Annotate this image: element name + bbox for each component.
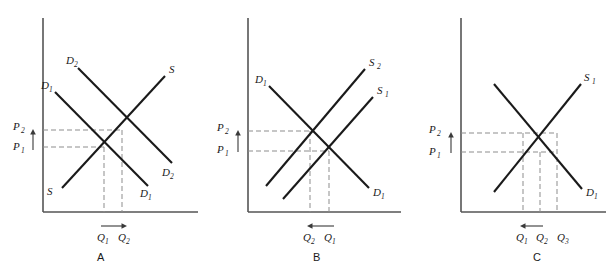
price-change-arrow-up-icon [30,129,36,150]
quantity-label-q1: Q 1 [97,231,109,246]
price-label-p2-sub: 2 [225,127,229,136]
curve-label-d1-end: D 1 [139,187,152,202]
panel-a: D 2 D 1 S D 2 D 1 S [0,0,203,269]
quantity-label-q1-sub: 1 [105,237,109,246]
curve-label-d1-end-sub: 1 [381,192,385,201]
curve-label-d2-top: D 2 [65,54,78,69]
quantity-label-q1-letter: Q [516,231,524,243]
curve-label-d1-top-letter: D [40,79,49,91]
price-label-p2-letter: P [12,120,20,132]
quantity-label-q2-letter: Q [118,231,126,243]
quantity-label-q3-sub: 3 [564,237,569,246]
price-label-p2-letter: P [216,121,224,133]
curve-label-s1: S 1 [584,71,596,86]
price-label-p2: P 2 [428,123,441,138]
curve-label-s1-sub: 1 [385,90,389,99]
curve-label-d1-top: D 1 [254,73,267,88]
curve-label-s2-letter: S [369,56,375,68]
panel-letter-b: B [313,251,320,263]
curve-label-s-top: S [169,63,175,75]
price-label-p1: P 1 [216,143,229,158]
quantity-label-q1-sub: 1 [332,237,336,246]
quantity-change-arrow-right-icon [101,223,127,229]
quantity-change-arrow-left-icon [520,223,543,229]
quantity-change-arrow-left-icon [307,223,334,229]
curve-label-s2-sub: 2 [377,62,381,71]
curve-demand-d1 [55,92,148,186]
quantity-label-q2: Q 2 [118,231,130,246]
quantity-label-q1-letter: Q [97,231,105,243]
curve-label-s-end: S [47,185,53,197]
quantity-label-q2-sub: 2 [126,237,130,246]
quantity-label-q3: Q 3 [557,231,569,246]
price-label-p1-letter: P [216,143,224,155]
curve-label-d1-letter: D [585,186,594,198]
quantity-label-q2: Q 2 [536,231,548,246]
price-change-arrow-up-icon [235,130,241,152]
price-label-p2: P 2 [216,121,229,136]
curve-label-s-end-letter: S [47,185,53,197]
quantity-label-q1: Q 1 [324,231,336,246]
panel-c-plot: S 1 D 1 P 2 P 1 [406,0,609,269]
price-label-p1-letter: P [428,145,436,157]
curve-label-d2-end: D 2 [161,166,174,181]
quantity-label-q1-sub: 1 [524,237,528,246]
panel-letter-c: C [533,251,541,263]
curve-label-d1-end-letter: D [139,187,148,199]
curve-label-d1-top-sub: 1 [263,79,267,88]
price-label-p2-sub: 2 [437,129,441,138]
panel-b-plot: S 2 S 1 D 1 D 1 P 2 [203,0,406,269]
quantity-label-q2-sub: 2 [544,237,548,246]
price-label-p1-sub: 1 [437,151,441,160]
supply-demand-figure: D 2 D 1 S D 2 D 1 S [0,0,609,269]
panel-b: S 2 S 1 D 1 D 1 P 2 [203,0,406,269]
curve-label-s1: S 1 [377,84,389,99]
quantity-label-q2-letter: Q [536,231,544,243]
curve-label-d1-top-letter: D [254,73,263,85]
curve-label-d1-end: D 1 [372,186,385,201]
curve-label-d1-top: D 1 [40,79,53,94]
price-label-p1-sub: 1 [21,146,25,155]
curve-demand-d1 [269,86,369,188]
curve-label-d1-end-sub: 1 [148,193,152,202]
price-label-p2: P 2 [12,120,25,135]
panel-letter-a: A [97,251,105,263]
curve-label-s-top-letter: S [169,63,175,75]
panel-a-plot: D 2 D 1 S D 2 D 1 S [0,0,203,269]
curve-label-d2-end-letter: D [161,166,170,178]
quantity-label-q3-letter: Q [557,231,565,243]
curve-label-s1-sub: 1 [592,77,596,86]
curve-label-d2-top-sub: 2 [74,60,78,69]
price-label-p1-letter: P [12,140,20,152]
price-change-arrow-up-icon [448,132,454,153]
curve-label-d1-top-sub: 1 [49,85,53,94]
price-label-p1: P 1 [428,145,441,160]
price-label-p2-sub: 2 [21,126,25,135]
curve-label-s2: S 2 [369,56,381,71]
curve-label-d1-end-letter: D [372,186,381,198]
curve-label-s1-letter: S [584,71,590,83]
price-label-p1-sub: 1 [225,149,229,158]
panel-row: D 2 D 1 S D 2 D 1 S [0,0,609,269]
quantity-label-q2: Q 2 [303,231,315,246]
quantity-label-q2-sub: 2 [311,237,315,246]
curve-label-s1-letter: S [377,84,383,96]
curve-label-d2-top-letter: D [65,54,74,66]
curve-label-d2-end-sub: 2 [170,172,174,181]
price-label-p1: P 1 [12,140,25,155]
curve-label-d1-sub: 1 [594,192,598,201]
curve-supply-s [62,76,165,188]
price-label-p2-letter: P [428,123,436,135]
panel-c: S 1 D 1 P 2 P 1 [406,0,609,269]
quantity-label-q1: Q 1 [516,231,528,246]
quantity-label-q1-letter: Q [324,231,332,243]
quantity-label-q2-letter: Q [303,231,311,243]
curve-label-d1: D 1 [585,186,598,201]
